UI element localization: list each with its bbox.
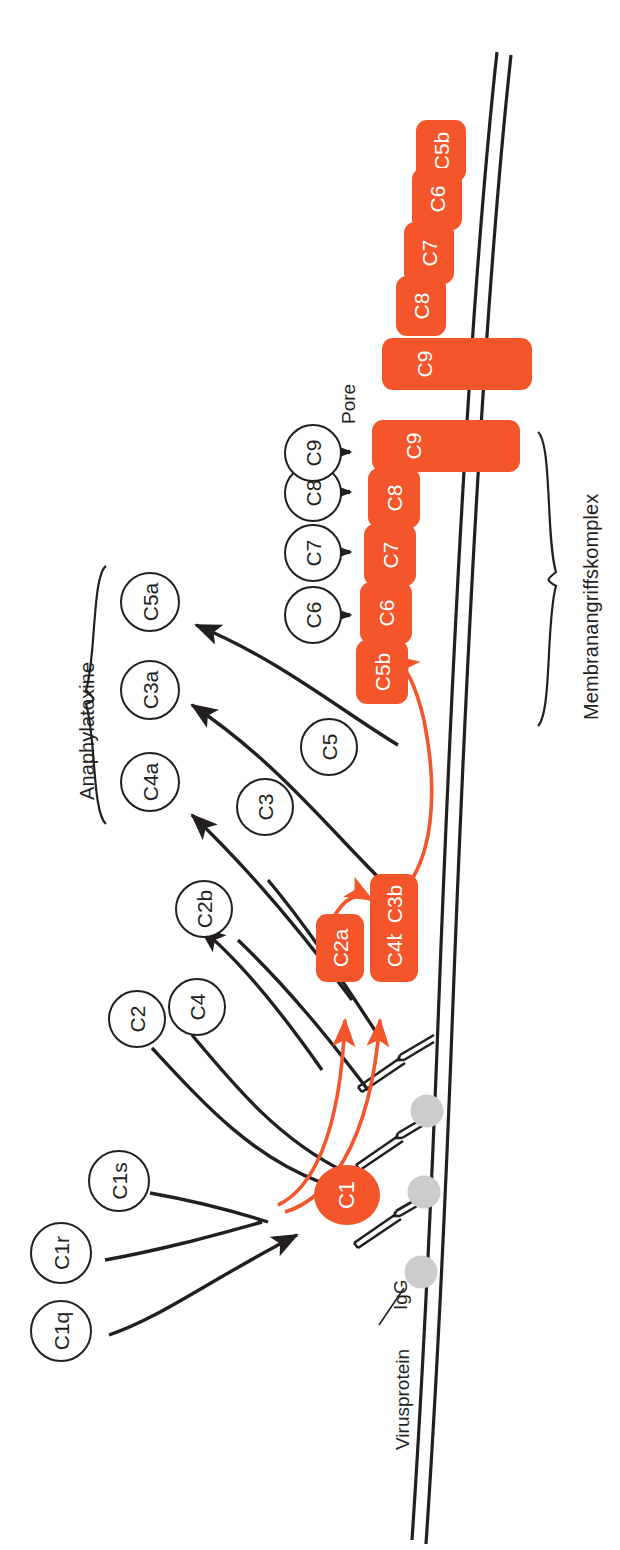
c1-assembly-arrows (105, 1193, 297, 1335)
node-c1s-label: C1s (109, 1162, 130, 1199)
node-c6-label: C6 (303, 602, 324, 629)
pore-block-c8-label: C8 (411, 293, 432, 320)
pore-block-c6-label: C6 (427, 186, 448, 213)
node-c5a-label: C5a (140, 583, 161, 622)
node-c4a-label: C4a (140, 763, 161, 802)
bound-c1-label: C1 (336, 1181, 358, 1209)
mac-block-c7-label: C7 (380, 542, 401, 569)
node-c4a[interactable]: C4a (120, 752, 180, 812)
node-c3[interactable]: C3 (236, 778, 294, 836)
mac-block-c6[interactable]: C6 (360, 582, 412, 644)
mac-block-c7[interactable]: C7 (364, 524, 416, 586)
node-c8-label: C8 (303, 480, 324, 507)
mac-block-c5b[interactable]: C5b (356, 640, 408, 704)
node-c1q-label: C1q (51, 1312, 72, 1351)
node-c2-label: C2 (127, 1006, 148, 1033)
mac-block-c9-label: C9 (403, 433, 424, 460)
node-c3-label: C3 (255, 794, 276, 821)
block-c4b-label: C4b (384, 929, 405, 968)
node-c2[interactable]: C2 (108, 990, 166, 1048)
mac-block-c6-label: C6 (376, 600, 397, 627)
pore-block-c7-label: C7 (419, 240, 440, 267)
mac-block-c5b-label: C5b (372, 653, 393, 692)
complement-cascade-figure: C1q C1r C1s C2 C4 C3 C5 C2b C4a C3a C5a … (0, 0, 620, 1550)
block-c2a[interactable]: C2a (316, 914, 364, 982)
mac-block-c8[interactable]: C8 (368, 468, 420, 528)
igg-label: IgG (390, 1279, 412, 1310)
block-c2a-label: C2a (330, 929, 351, 968)
pore-block-c9[interactable]: C9 (382, 338, 532, 390)
pore-block-c9-label: C9 (414, 351, 435, 378)
node-c6[interactable]: C6 (284, 586, 342, 644)
pore-block-c8[interactable]: C8 (396, 276, 446, 336)
pore-block-c5b-label: C5b (431, 132, 452, 171)
pore-label: Pore (338, 384, 360, 424)
node-c4-label: C4 (187, 994, 208, 1021)
anaphylatoxine-group-label: Anaphylatoxine (76, 662, 99, 800)
node-c7-label: C7 (303, 540, 324, 567)
pore-block-c6[interactable]: C6 (412, 168, 462, 230)
node-c7[interactable]: C7 (284, 524, 342, 582)
mac-brace (538, 432, 556, 726)
node-c1s[interactable]: C1s (88, 1150, 150, 1212)
node-c9-label: C9 (303, 440, 324, 467)
node-c9[interactable]: C9 (284, 424, 342, 482)
bound-c1-blob[interactable]: C1 (314, 1165, 380, 1225)
pore-block-c7[interactable]: C7 (404, 222, 454, 284)
node-c5-label: C5 (319, 734, 340, 761)
node-c3a-label: C3a (140, 671, 161, 710)
node-c1r[interactable]: C1r (30, 1222, 92, 1284)
node-c5[interactable]: C5 (300, 718, 358, 776)
node-c3a[interactable]: C3a (120, 660, 180, 720)
block-c3b-label: C3b (384, 885, 405, 924)
virusprotein-label: Virusprotein (392, 1349, 414, 1450)
node-c4[interactable]: C4 (168, 978, 226, 1036)
membranangriffskomplex-group-label: Membranangriffskomplex (580, 494, 603, 720)
block-c3b[interactable]: C3b (370, 874, 418, 934)
node-c5a[interactable]: C5a (120, 572, 180, 632)
virusprotein-discs (405, 1095, 444, 1289)
mac-block-c8-label: C8 (384, 485, 405, 512)
node-c2b[interactable]: C2b (175, 880, 233, 938)
node-c1r-label: C1r (51, 1236, 72, 1270)
node-c2b-label: C2b (194, 890, 215, 929)
mac-block-c9[interactable]: C9 (372, 420, 520, 472)
node-c1q[interactable]: C1q (30, 1300, 92, 1362)
